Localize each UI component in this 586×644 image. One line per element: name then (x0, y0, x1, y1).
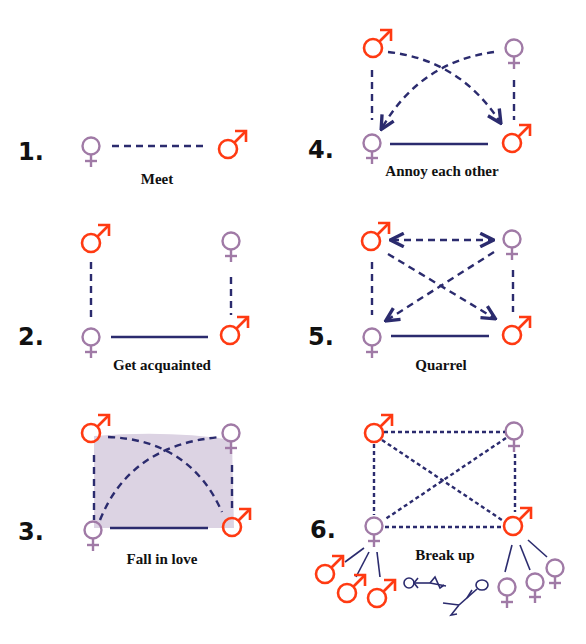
venus-icon (364, 135, 381, 165)
stage-caption: Quarrel (415, 357, 466, 373)
link-line (520, 545, 530, 570)
stage-number: 4. (308, 136, 334, 164)
mars-icon (316, 556, 343, 583)
link-line (505, 545, 512, 572)
fallen-figure-icon (404, 577, 446, 588)
stage-caption: Annoy each other (385, 163, 499, 179)
stage-caption: Fall in love (127, 551, 198, 567)
mars-icon (368, 580, 395, 607)
mars-icon (504, 508, 531, 535)
venus-icon (499, 579, 516, 609)
stage-5: 5. Quarrel (308, 223, 530, 373)
stage-1: 1. Meet (18, 131, 246, 187)
venus-icon (366, 518, 383, 548)
dotted-connection (384, 438, 506, 520)
love-shaded-area (94, 434, 234, 528)
link-line (377, 552, 380, 577)
dashed-arrow (382, 52, 494, 128)
venus-icon (506, 423, 523, 453)
venus-icon (504, 231, 521, 261)
venus-icon (547, 560, 564, 590)
stage-6: 6. Break up (310, 415, 564, 615)
stage-caption: Meet (141, 171, 173, 187)
stage-number: 3. (18, 518, 44, 546)
venus-icon (364, 329, 381, 359)
stage-4: 4. Annoy each other (308, 30, 530, 179)
stage-caption: Get acquainted (113, 357, 212, 373)
dashed-arrow (388, 52, 500, 122)
venus-icon (527, 574, 544, 604)
mars-icon (365, 415, 392, 442)
mars-icon (364, 30, 391, 57)
venus-icon (223, 233, 240, 263)
stage-number: 5. (308, 323, 334, 351)
link-line (345, 548, 364, 562)
relationship-stages-diagram: 1. Meet 2. Get acquainted 3. Fall in lov… (0, 0, 586, 644)
mars-icon (503, 125, 530, 152)
venus-icon (83, 138, 100, 168)
stage-2: 2. Get acquainted (18, 225, 248, 373)
fallen-figure-icon (443, 580, 488, 615)
stage-number: 2. (18, 323, 44, 351)
mars-icon (219, 131, 246, 158)
mars-icon (338, 575, 365, 602)
stage-caption: Break up (415, 547, 474, 563)
mars-icon (82, 225, 109, 252)
link-line (528, 540, 547, 557)
venus-icon (83, 329, 100, 359)
venus-icon (506, 40, 523, 70)
stage-number: 6. (310, 516, 336, 544)
stage-3: 3. Fall in love (18, 415, 250, 567)
mars-icon (503, 317, 530, 344)
link-line (356, 552, 369, 577)
mars-icon (221, 317, 248, 344)
mars-icon (362, 223, 389, 250)
stage-number: 1. (18, 138, 44, 166)
